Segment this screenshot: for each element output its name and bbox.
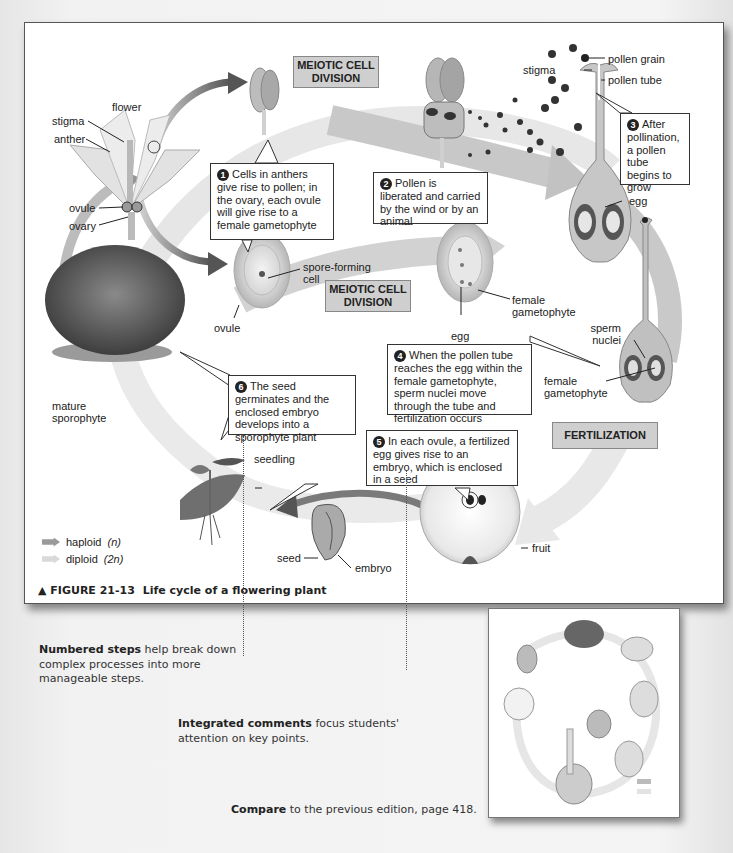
stage-fertilization: FERTILIZATION [552,422,658,449]
step-number-badge: 5 [373,436,385,448]
step-number-badge: 2 [380,178,392,190]
label-egg-right: egg [629,195,647,207]
step-text: Pollen is liberated and carried by the w… [380,177,480,227]
step-text: In each ovule, a fertilized egg gives ri… [373,435,510,485]
step-number-badge: 1 [217,169,229,181]
step-text: Cells in anthers give rise to pollen; in… [217,168,321,231]
step-text: The seed germinates and the enclosed emb… [235,380,329,443]
note-bold: Numbered steps [39,643,141,656]
label-ovule-left: ovule [69,202,95,214]
legend-diploid: diploid (2n) [42,553,123,565]
ovule-illustration [234,232,290,308]
label-sperm-nuclei: sperm nuclei [576,322,621,346]
note-bold: Integrated comments [178,717,312,730]
legend-haploid: haploid (n) [42,536,121,548]
step-number-badge: 4 [394,350,406,362]
legend-label: haploid [66,536,101,548]
female-gametophyte-ovule [437,222,493,302]
step-number-badge: 6 [235,381,247,393]
note-integrated-comments: Integrated comments focus students' atte… [178,717,418,746]
label-anther: anther [54,133,85,145]
label-seed: seed [277,552,301,564]
label-female-gametophyte-mid: female gametophyte [512,294,582,318]
legend-label: diploid [66,553,98,565]
label-egg-mid: egg [451,330,469,342]
label-stigma-left: stigma [52,115,84,127]
label-pollen-grain: pollen grain [608,53,665,65]
legend-symbol: (n) [107,536,120,548]
figure-caption: ▲ FIGURE 21-13 Life cycle of a flowering… [38,584,327,597]
note-compare: Compare to the previous edition, page 41… [231,803,477,818]
caption-marker-icon: ▲ [38,584,46,597]
dotted-pointer-integrated [406,470,407,670]
callout-step-1: 1Cells in anthers give rise to pollen; i… [210,163,334,240]
callout-step-6: 6The seed germinates and the enclosed em… [228,375,356,435]
stage-meiotic-mid: MEIOTIC CELL DIVISION [325,280,411,312]
label-stigma-right: stigma [523,64,555,76]
label-female-gametophyte-right: female gametophyte [544,375,614,399]
thumbnail-diagram [489,609,679,817]
label-flower: flower [112,101,141,113]
diploid-arrow-icon [42,555,60,564]
label-mature-sporophyte: mature sporophyte [52,400,114,424]
caption-number: FIGURE 21-13 [50,584,135,597]
haploid-arrow-icon [42,538,60,547]
stage-meiotic-top: MEIOTIC CELL DIVISION [293,56,379,88]
callout-step-3: 3After pollination, a pollen tube begins… [620,113,690,185]
anther-illustration [250,68,279,135]
dotted-pointer-numbered [243,436,244,656]
seed-illustration [312,504,346,560]
label-ovule-mid: ovule [214,322,240,334]
caption-title: Life cycle of a flowering plant [143,584,327,597]
callout-step-2: 2Pollen is liberated and carried by the … [373,172,488,224]
tree-illustration [45,245,185,362]
note-text: to the previous edition, page 418. [286,803,476,816]
callout-step-4: 4When the pollen tube reaches the egg wi… [387,344,532,415]
label-pollen-tube: pollen tube [608,74,662,86]
note-numbered-steps: Numbered steps help break down complex p… [39,643,249,687]
step-number-badge: 3 [627,119,639,131]
note-bold: Compare [231,803,286,816]
label-ovary: ovary [69,220,96,232]
callout-step-5: 5In each ovule, a fertilized egg gives r… [366,430,518,486]
previous-edition-thumbnail [488,608,680,818]
label-seedling: seedling [254,453,295,465]
label-embryo: embryo [355,562,392,574]
legend-symbol: (2n) [104,553,124,565]
step-text: When the pollen tube reaches the egg wit… [394,349,522,424]
label-fruit: fruit [532,542,550,554]
